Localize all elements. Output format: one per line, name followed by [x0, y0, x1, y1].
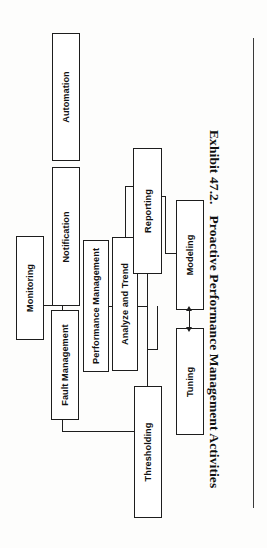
exhibit-caption: Exhibit 47.2.Proactive Performance Manag… — [198, 130, 222, 470]
node-modeling-label: Modeling — [185, 235, 195, 276]
arrow-modeling-tuning-head-up — [186, 306, 192, 311]
connector-modeling-branch — [165, 196, 166, 254]
node-monitoring-label: Monitoring — [25, 264, 35, 312]
exhibit-caption-number: Exhibit 47.2. — [207, 130, 222, 204]
node-analyze-and-trend-label: Analyze and Trend — [120, 263, 130, 345]
connector-tuning-branch — [157, 306, 158, 350]
node-tuning-label: Tuning — [185, 366, 195, 396]
node-fault-management[interactable]: Fault Management — [51, 310, 79, 420]
node-automation[interactable]: Automation — [52, 33, 80, 161]
node-reporting[interactable]: Reporting — [133, 148, 162, 274]
node-fault-management-label: Fault Management — [60, 324, 70, 405]
node-notification[interactable]: Notification — [52, 167, 80, 306]
arrow-modeling-tuning-head-down — [186, 327, 192, 332]
connector-tuning-stub — [147, 349, 158, 350]
node-thresholding[interactable]: Thresholding — [134, 386, 162, 518]
node-performance-management-label: Performance Management — [91, 248, 101, 364]
connector-modeling-stub — [165, 253, 176, 254]
node-monitoring[interactable]: Monitoring — [16, 236, 44, 340]
arrow-modeling-tuning-line — [189, 311, 190, 328]
node-thresholding-label: Thresholding — [143, 423, 153, 482]
node-performance-management[interactable]: Performance Management — [83, 240, 109, 372]
node-notification-label: Notification — [61, 211, 71, 262]
node-reporting-label: Reporting — [143, 189, 153, 233]
page-rule-line — [253, 38, 254, 508]
scanned-page: Automation Notification Monitoring Fault… — [0, 0, 267, 548]
node-automation-label: Automation — [61, 71, 71, 123]
exhibit-caption-title: Proactive Performance Management Activit… — [207, 215, 222, 488]
